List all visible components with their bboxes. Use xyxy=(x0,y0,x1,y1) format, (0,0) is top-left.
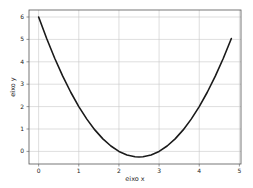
y-axis-label: eixo y xyxy=(9,77,17,96)
y-axis-ticks: 0123456 xyxy=(20,13,29,154)
x-tick-label: 1 xyxy=(77,167,81,174)
y-tick-label: 3 xyxy=(20,80,24,87)
y-tick-label: 1 xyxy=(20,125,24,132)
y-tick-label: 4 xyxy=(20,58,24,65)
series-line xyxy=(39,17,232,157)
x-tick-label: 4 xyxy=(197,167,201,174)
y-tick-label: 0 xyxy=(20,147,24,154)
y-tick-label: 6 xyxy=(20,13,24,20)
y-tick-label: 2 xyxy=(20,103,24,110)
series-layer xyxy=(39,17,232,157)
x-tick-label: 2 xyxy=(117,167,121,174)
chart: 012345 0123456 eixo x eixo y xyxy=(0,0,253,188)
x-axis-ticks: 012345 xyxy=(37,164,242,174)
x-tick-label: 0 xyxy=(37,167,41,174)
x-tick-label: 3 xyxy=(157,167,161,174)
y-tick-label: 5 xyxy=(20,35,24,42)
x-axis-label: eixo x xyxy=(125,175,144,183)
x-tick-label: 5 xyxy=(237,167,241,174)
